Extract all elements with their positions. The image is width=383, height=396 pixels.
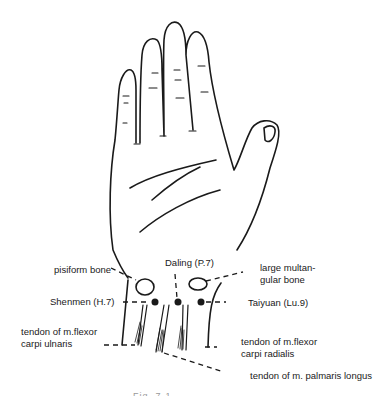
thenar-crease (140, 190, 220, 232)
wrist-ulnar-edge (122, 280, 128, 345)
taiyuan-point (198, 299, 205, 306)
label-large-multangular-1: large multan- (260, 262, 315, 273)
label-pisiform-bone: pisiform bone (54, 264, 111, 275)
thumbnail (264, 126, 275, 142)
large-multangular-bone (189, 278, 207, 290)
label-flexor-ulnaris-2: carpi ulnaris (21, 338, 72, 349)
daling-point (175, 299, 182, 306)
leader-multangular (206, 272, 243, 281)
label-flexor-radialis-1: tendon of m.flexor (241, 336, 317, 347)
label-palmaris-longus: tendon of m. palmaris longus (250, 370, 372, 381)
label-large-multangular-2: gular bone (260, 274, 305, 285)
leader-daling (175, 274, 177, 298)
pisiform-bone (136, 279, 154, 295)
shenmen-point (152, 299, 159, 306)
figure-caption: Fig. 7-1 (133, 389, 172, 396)
label-flexor-radialis-2: carpi radialis (241, 348, 294, 359)
leader-palmaris (164, 353, 224, 372)
wrist-radial-edge (208, 283, 221, 347)
hand-outline (110, 22, 279, 278)
label-flexor-ulnaris-1: tendon of m.flexor (21, 326, 97, 337)
palm-crease (152, 167, 200, 200)
label-daling: Daling (P.7) (165, 257, 214, 268)
label-shenmen: Shenmen (H.7) (50, 296, 114, 307)
label-taiyuan: Taiyuan (Lu.9) (248, 297, 308, 308)
